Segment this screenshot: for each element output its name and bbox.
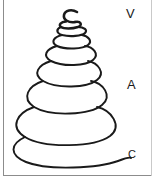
label-vertex-v: V xyxy=(126,7,135,20)
figure-frame: V A C xyxy=(0,0,153,182)
label-base-c: C xyxy=(128,149,136,160)
spiral-loop-8-tail xyxy=(14,137,132,168)
label-axis-a: A xyxy=(127,78,136,91)
